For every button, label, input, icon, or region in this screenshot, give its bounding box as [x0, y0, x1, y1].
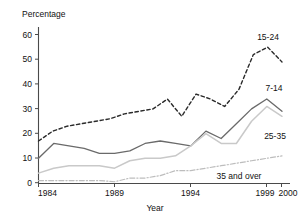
series-label-25-35: 25-35: [264, 131, 286, 141]
series-label-7-14: 7-14: [265, 83, 282, 93]
y-tick-label-0: 0: [27, 178, 32, 188]
series-line-25-35: [39, 106, 283, 173]
x-axis-ticks: [39, 184, 282, 187]
x-tick-label-1984: 1984: [38, 188, 57, 198]
series-line-15-24: [39, 47, 283, 141]
chart-svg: Percentage 60 50 40 30 20 10 0: [0, 0, 304, 221]
line-chart: Percentage 60 50 40 30 20 10 0: [0, 0, 304, 221]
series-layer: [39, 47, 283, 182]
y-tick-label-40: 40: [23, 79, 33, 89]
series-line-7-14: [39, 99, 283, 158]
y-tick-label-50: 50: [23, 54, 33, 64]
y-axis-ticks: [35, 35, 38, 183]
series-label-35-over: 35 and over: [217, 171, 262, 181]
y-axis-title: Percentage: [22, 9, 66, 19]
y-tick-label-20: 20: [23, 128, 33, 138]
x-tick-label-1994: 1994: [181, 188, 200, 198]
x-tick-label-1999: 1999: [256, 188, 275, 198]
series-label-15-24: 15-24: [257, 32, 279, 42]
y-tick-label-60: 60: [23, 30, 33, 40]
x-tick-label-1989: 1989: [105, 188, 124, 198]
x-axis-title: Year: [146, 203, 163, 213]
y-tick-label-30: 30: [23, 104, 33, 114]
x-tick-label-2000: 2000: [279, 188, 298, 198]
y-tick-label-10: 10: [23, 153, 33, 163]
